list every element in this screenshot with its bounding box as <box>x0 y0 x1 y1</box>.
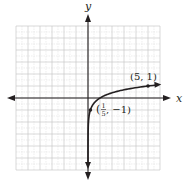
x-axis-left-arrow-icon <box>7 95 15 101</box>
svg-text:(: ( <box>96 103 100 116</box>
y-axis-label: y <box>84 0 92 13</box>
y-axis-bottom-arrow-icon <box>85 172 91 180</box>
y-axis-top-arrow-icon <box>85 14 91 22</box>
point-fifth-neg1 <box>89 108 93 112</box>
point-label-fifth-neg1: ( 1 5 , −1) <box>96 102 131 119</box>
svg-text:, −1): , −1) <box>106 104 131 115</box>
point-label-5-1: (5, 1) <box>130 71 157 82</box>
x-axis-label: x <box>176 92 183 105</box>
x-axis-right-arrow-icon <box>163 95 171 101</box>
curve-down-arrow-icon <box>85 162 91 169</box>
log-graph: x y (5, 1) ( 1 5 , −1) <box>0 0 185 181</box>
point-5-1 <box>146 84 150 88</box>
